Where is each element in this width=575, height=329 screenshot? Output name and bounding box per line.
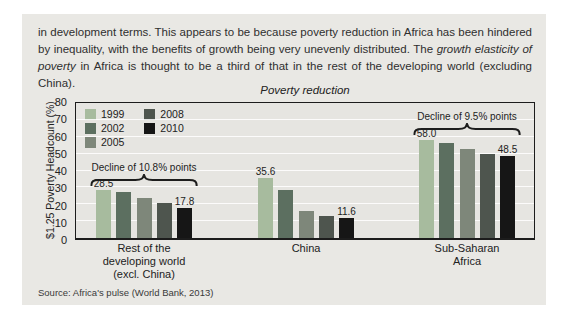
y-tick-label: 20 [55,200,67,212]
x-axis-group-label: China [292,242,321,255]
y-tick-label: 50 [55,148,67,160]
bar-1999: 28.5 [96,190,111,238]
body-paragraph: in development terms. This appears to be… [38,24,532,92]
annotation-text: Decline of 9.5% points [417,111,517,122]
bar-1999: 58.0 [419,140,434,238]
chart-plot-area: 19992002200520082010 28.517.8Decline of … [75,102,535,240]
bar-group: 35.611.6China [258,103,354,238]
decline-annotation: Decline of 10.8% points [90,162,198,186]
y-tick-label: 0 [61,234,67,246]
chart-title: Poverty reduction [75,84,535,96]
legend-swatch-icon [85,109,96,120]
bar-2005 [137,198,152,238]
decline-annotation: Decline of 9.5% points [413,111,521,135]
page: in development terms. This appears to be… [0,0,575,329]
bar-value-label: 11.6 [337,206,356,217]
bar-2008 [480,154,495,238]
bar-2010: 11.6 [339,218,354,238]
curly-brace-icon [90,174,198,186]
bar-value-label: 48.5 [498,144,517,155]
y-tick-label: 30 [55,182,67,194]
bar-2008 [319,216,334,238]
y-tick-label: 80 [55,96,67,108]
bar-1999: 35.6 [258,178,273,238]
bar-group: 58.048.5Decline of 9.5% pointsSub-Sahara… [419,103,515,238]
bar-2010: 48.5 [500,156,515,238]
legend-swatch-icon [85,137,96,148]
bar-value-label: 35.6 [256,166,275,177]
bar-2002 [439,143,454,238]
bar-2002 [116,192,131,238]
curly-brace-icon [413,123,521,135]
x-axis-group-label: Sub-SaharanAfrica [435,242,500,268]
figure-panel: in development terms. This appears to be… [22,14,546,305]
bar-2005 [299,211,314,239]
y-tick-label: 40 [55,165,67,177]
y-axis-ticks: 01020304050607080 [22,102,70,240]
y-tick-label: 10 [55,217,67,229]
x-axis-group-label: Rest of thedeveloping world(excl. China) [103,242,186,281]
legend-swatch-icon [85,123,96,134]
y-tick-label: 70 [55,113,67,125]
y-tick-label: 60 [55,131,67,143]
bar-group: 28.517.8Decline of 10.8% pointsRest of t… [96,103,192,238]
bar-2002 [278,190,293,238]
source-note: Source: Africa's pulse (World Bank, 2013… [38,287,213,298]
bar-value-label: 17.8 [175,196,194,207]
bar-2010: 17.8 [177,208,192,238]
annotation-text: Decline of 10.8% points [91,162,196,173]
bar-2008 [157,203,172,238]
bar-2005 [460,149,475,238]
